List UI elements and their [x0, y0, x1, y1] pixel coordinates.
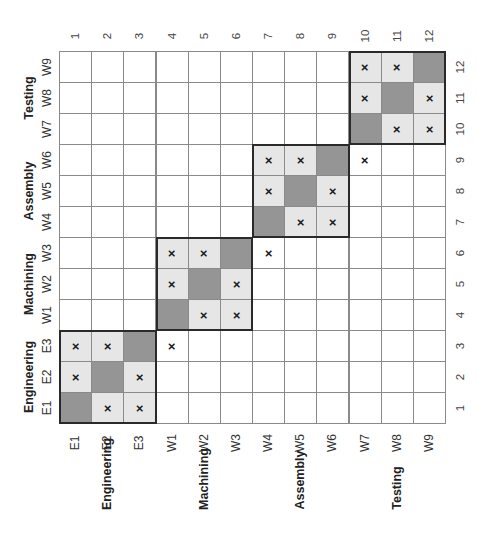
- row-label-text: W9: [40, 58, 54, 76]
- x-mark-icon: ×: [294, 156, 307, 164]
- column-number-text: 2: [101, 33, 113, 39]
- matrix-cell: [381, 392, 414, 424]
- dependency-mark: ×: [285, 145, 316, 175]
- matrix-cell: [381, 237, 414, 269]
- x-mark-icon: ×: [101, 404, 114, 412]
- column-label-text: W9: [422, 434, 436, 452]
- dependency-mark: ×: [382, 114, 413, 144]
- matrix-cell: [349, 206, 382, 238]
- matrix-cell: [59, 268, 92, 300]
- matrix-cell: [413, 175, 446, 207]
- dependency-mark: ×: [92, 393, 123, 423]
- matrix-cell: [284, 299, 317, 331]
- dependency-mark: ×: [124, 362, 155, 392]
- dependency-mark: ×: [221, 269, 252, 299]
- dependency-mark: ×: [253, 238, 284, 268]
- matrix-cell: [91, 113, 124, 145]
- dependency-mark: ×: [124, 393, 155, 423]
- matrix-cell: [316, 361, 349, 393]
- matrix-cell: [123, 51, 156, 83]
- matrix-cell: [123, 82, 156, 114]
- column-number-text: 7: [262, 33, 274, 39]
- matrix-cell: ×: [381, 51, 414, 83]
- x-mark-icon: ×: [423, 94, 436, 102]
- matrix-cell: [381, 82, 414, 114]
- matrix-cell: ×: [220, 268, 253, 300]
- matrix-cell: ×: [220, 299, 253, 331]
- x-mark-icon: ×: [262, 249, 275, 257]
- x-mark-icon: ×: [198, 249, 211, 257]
- matrix-cell: [123, 237, 156, 269]
- matrix-cell: [156, 113, 189, 145]
- matrix-cell: [156, 361, 189, 393]
- design-structure-matrix: 123456789101112 121110987654321 W9W8W7W6…: [0, 0, 478, 533]
- matrix-cell: [91, 299, 124, 331]
- matrix-cell: [252, 206, 285, 238]
- matrix-cell: [316, 330, 349, 362]
- x-mark-icon: ×: [133, 404, 146, 412]
- matrix-cell: [252, 299, 285, 331]
- matrix-cell: [413, 330, 446, 362]
- matrix-cell: [59, 82, 92, 114]
- column-label-text: W3: [229, 434, 243, 452]
- matrix-cell: [123, 299, 156, 331]
- dependency-mark: ×: [60, 362, 91, 392]
- column-number-text: 9: [326, 33, 338, 39]
- matrix-cell: [220, 82, 253, 114]
- x-mark-icon: ×: [166, 280, 179, 288]
- row-group-label-engineering-text: Engineering: [22, 340, 36, 412]
- matrix-cell: ×: [252, 237, 285, 269]
- column-number-text: 11: [391, 30, 403, 42]
- x-mark-icon: ×: [69, 342, 82, 350]
- matrix-cell: [220, 361, 253, 393]
- matrix-cell: [220, 330, 253, 362]
- x-mark-icon: ×: [230, 280, 243, 288]
- matrix-cell: ×: [59, 361, 92, 393]
- matrix-cell: [188, 51, 221, 83]
- x-mark-icon: ×: [359, 94, 372, 102]
- matrix-cell: ×: [413, 113, 446, 145]
- x-mark-icon: ×: [359, 63, 372, 71]
- column-number-text: 10: [359, 30, 371, 43]
- column-number-text: 12: [423, 30, 435, 43]
- matrix-cell: ×: [123, 361, 156, 393]
- row-label-text: W7: [40, 120, 54, 138]
- column-group-label-assembly-text: Assembly: [293, 451, 307, 510]
- matrix-cell: [316, 113, 349, 145]
- column-label-text: W6: [325, 434, 339, 452]
- column-label-text: W4: [261, 434, 275, 452]
- dependency-mark: ×: [157, 269, 188, 299]
- matrix-cell: [91, 144, 124, 176]
- matrix-cell: ×: [156, 268, 189, 300]
- matrix-cell: [156, 299, 189, 331]
- matrix-cell: [349, 268, 382, 300]
- matrix-cell: ×: [284, 206, 317, 238]
- matrix-cell: [381, 175, 414, 207]
- matrix-cell: [188, 206, 221, 238]
- dependency-mark: ×: [157, 238, 188, 268]
- matrix-cell: [413, 299, 446, 331]
- dependency-mark: ×: [221, 300, 252, 330]
- matrix-cell: [123, 330, 156, 362]
- column-group-label-machining-text: Machining: [197, 448, 211, 510]
- matrix-cell: [349, 237, 382, 269]
- column-label-text: W5: [293, 434, 307, 452]
- matrix-cell: [188, 175, 221, 207]
- matrix-cell: ×: [284, 144, 317, 176]
- x-mark-icon: ×: [326, 218, 339, 226]
- dependency-mark: ×: [414, 114, 445, 144]
- column-label-text: W7: [358, 434, 372, 452]
- column-label-text: E3: [132, 436, 146, 451]
- matrix-cell: ×: [156, 330, 189, 362]
- matrix-cell: [284, 237, 317, 269]
- dependency-mark: ×: [60, 331, 91, 361]
- dependency-mark: ×: [350, 83, 381, 113]
- matrix-cell: [349, 330, 382, 362]
- matrix-cell: [252, 113, 285, 145]
- matrix-cell: [59, 113, 92, 145]
- dependency-mark: ×: [92, 331, 123, 361]
- row-label-text: W8: [40, 89, 54, 107]
- row-number-text: 12: [454, 60, 466, 73]
- matrix-cell: [284, 392, 317, 424]
- matrix-cell: [123, 144, 156, 176]
